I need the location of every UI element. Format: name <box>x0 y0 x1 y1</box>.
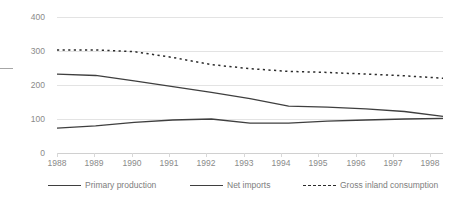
plot-area <box>57 17 443 153</box>
x-tick-label: 1992 <box>197 158 216 168</box>
x-tick-mark <box>318 153 319 157</box>
chart-legend: Primary production Net imports Gross inl… <box>0 180 459 200</box>
x-tick-mark <box>132 153 133 157</box>
x-tick-label: 1991 <box>160 158 179 168</box>
legend-item-gross-inland-consumption[interactable]: Gross inland consumption <box>303 180 438 190</box>
x-tick-label: 1988 <box>48 158 67 168</box>
y-tick-label: 100 <box>31 115 45 124</box>
y-tick-label: 300 <box>31 47 45 56</box>
x-tick-label: 1996 <box>347 158 366 168</box>
x-tick-mark <box>57 153 58 157</box>
legend-item-label: Net imports <box>227 180 270 190</box>
x-tick-mark <box>169 153 170 157</box>
series-line-net-imports <box>57 118 443 128</box>
y-tick-label: 400 <box>31 13 45 22</box>
x-tick-mark <box>206 153 207 157</box>
dashed-line-icon <box>303 181 336 190</box>
solid-line-icon <box>48 181 81 190</box>
y-axis-tick-labels: 400 300 200 100 0 <box>0 0 52 207</box>
series-line-primary-production <box>57 74 443 116</box>
y-tick-label: 0 <box>40 149 45 158</box>
x-tick-mark <box>430 153 431 157</box>
x-tick-label: 1995 <box>309 158 328 168</box>
legend-item-label: Primary production <box>85 180 156 190</box>
x-tick-mark <box>393 153 394 157</box>
y-tick-label: 200 <box>31 81 45 90</box>
x-tick-label: 1989 <box>85 158 104 168</box>
x-axis-baseline <box>57 153 443 154</box>
series-line-gross-inland-consumption <box>57 50 443 78</box>
solid-line-icon <box>190 181 223 190</box>
x-tick-label: 1997 <box>384 158 403 168</box>
line-chart-figure: 400 300 200 100 0 1988 1989 19 <box>0 0 459 207</box>
series-lines-svg <box>57 17 443 153</box>
x-tick-label: 1990 <box>123 158 142 168</box>
x-tick-label: 1993 <box>235 158 254 168</box>
x-tick-label: 1994 <box>272 158 291 168</box>
x-tick-mark <box>94 153 95 157</box>
x-tick-mark <box>281 153 282 157</box>
x-axis-tick-labels: 1988 1989 1990 1991 1992 1993 1994 1995 … <box>0 158 459 174</box>
legend-item-net-imports[interactable]: Net imports <box>190 180 270 190</box>
x-tick-mark <box>356 153 357 157</box>
x-tick-label: 1998 <box>421 158 440 168</box>
x-tick-mark <box>244 153 245 157</box>
legend-item-label: Gross inland consumption <box>340 180 438 190</box>
legend-item-primary-production[interactable]: Primary production <box>48 180 156 190</box>
